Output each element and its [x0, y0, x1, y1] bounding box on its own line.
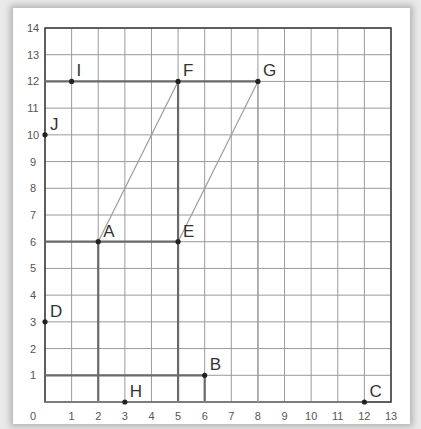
x-tick-label: 12	[358, 410, 370, 422]
point-label-a: A	[103, 222, 115, 241]
x-tick-label: 1	[69, 410, 75, 422]
y-tick-label: 9	[30, 156, 36, 168]
point-i	[69, 79, 74, 84]
point-d	[42, 319, 47, 324]
point-label-h: H	[130, 382, 142, 401]
x-tick-label: 3	[122, 410, 128, 422]
y-tick-label: 1	[30, 369, 36, 381]
x-tick-label: 4	[148, 410, 154, 422]
y-tick-label: 5	[30, 262, 36, 274]
x-tick-label: 13	[385, 410, 397, 422]
x-tick-label: 0	[30, 410, 36, 422]
y-tick-label: 14	[27, 22, 39, 34]
y-tick-label: 2	[30, 343, 36, 355]
point-f	[175, 79, 180, 84]
y-tick-label: 7	[30, 209, 36, 221]
point-b	[202, 373, 207, 378]
y-tick-label: 12	[27, 75, 39, 87]
point-label-f: F	[183, 61, 193, 80]
x-tick-label: 2	[95, 410, 101, 422]
point-h	[122, 399, 127, 404]
y-tick-label: 4	[30, 289, 36, 301]
point-label-g: G	[263, 61, 276, 80]
point-g	[255, 79, 260, 84]
point-label-i: I	[77, 61, 82, 80]
y-tick-label: 13	[27, 49, 39, 61]
point-label-b: B	[210, 355, 221, 374]
point-a	[96, 239, 101, 244]
x-tick-label: 6	[202, 410, 208, 422]
point-c	[362, 399, 367, 404]
y-tick-label: 8	[30, 182, 36, 194]
point-label-e: E	[183, 222, 194, 241]
x-tick-label: 11	[332, 410, 343, 422]
coordinate-grid-plot: 0123456789101112131234567891011121314ABC…	[0, 0, 421, 429]
x-tick-label: 5	[175, 410, 181, 422]
x-tick-label: 9	[281, 410, 287, 422]
point-label-j: J	[50, 115, 59, 134]
x-tick-label: 7	[228, 410, 234, 422]
point-label-d: D	[50, 302, 62, 321]
y-tick-label: 11	[27, 102, 38, 114]
y-tick-label: 6	[30, 236, 36, 248]
point-j	[42, 132, 47, 137]
y-tick-label: 10	[27, 129, 39, 141]
y-tick-label: 3	[30, 316, 36, 328]
x-tick-label: 8	[255, 410, 261, 422]
point-label-c: C	[369, 382, 381, 401]
point-e	[175, 239, 180, 244]
x-tick-label: 10	[305, 410, 317, 422]
